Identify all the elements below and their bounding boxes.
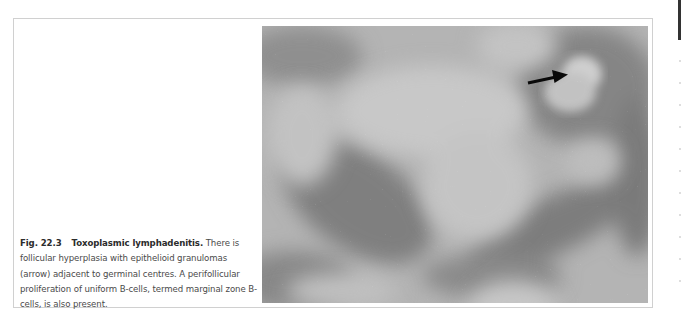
figure-title: Toxoplasmic lymphadenitis. xyxy=(72,238,204,248)
figure-caption: Fig. 22.3Toxoplasmic lymphadenitis. Ther… xyxy=(20,236,258,312)
figure-number: Fig. 22.3 xyxy=(20,238,62,248)
caption-body: There is follicular hyperplasia with epi… xyxy=(20,238,257,309)
page: Fig. 22.3Toxoplasmic lymphadenitis. Ther… xyxy=(0,0,681,321)
arrow-icon xyxy=(262,26,648,303)
micrograph-image xyxy=(262,26,648,303)
